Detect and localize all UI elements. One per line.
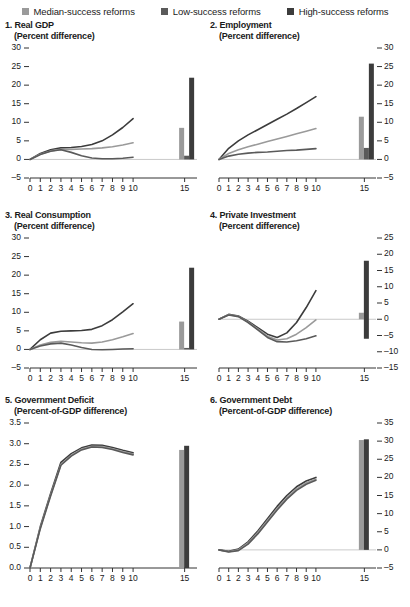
legend-item-high: High-success reforms xyxy=(287,6,389,17)
legend-label: Median-success reforms xyxy=(34,6,135,17)
chart-legend: Median-success reforms Low-success refor… xyxy=(0,0,410,20)
panel-private-investment: 4. Private Investment (Percent differenc… xyxy=(205,210,410,395)
panel-government-deficit: 5. Government Deficit (Percent-of-GDP di… xyxy=(0,395,205,597)
panel-subtitle: (Percent difference) xyxy=(0,31,205,42)
legend-label: High-success reforms xyxy=(299,6,389,17)
legend-item-median: Median-success reforms xyxy=(22,6,135,17)
panel-title: 5. Government Deficit xyxy=(0,395,205,406)
panel-subtitle: (Percent difference) xyxy=(205,221,410,232)
plot-area: –50510152025303501234567891015 xyxy=(205,417,410,592)
panel-title: 2. Employment xyxy=(205,20,410,31)
legend-label: Low-success reforms xyxy=(173,6,261,17)
panel-title: 6. Government Debt xyxy=(205,395,410,406)
plot-area: 0.00.51.01.52.02.53.03.501234567891015 xyxy=(0,417,205,592)
panel-subtitle: (Percent-of-GDP difference) xyxy=(205,406,410,417)
square-swatch-icon xyxy=(22,8,29,15)
panel-real-gdp: 1. Real GDP (Percent difference) –505101… xyxy=(0,20,205,210)
panel-subtitle: (Percent difference) xyxy=(0,221,205,232)
plot-area: –505101520253001234567891015 xyxy=(0,232,205,392)
panel-employment: 2. Employment (Percent difference) –5051… xyxy=(205,20,410,210)
square-swatch-icon xyxy=(161,8,168,15)
panel-government-debt: 6. Government Debt (Percent-of-GDP diffe… xyxy=(205,395,410,597)
panel-subtitle: (Percent difference) xyxy=(205,31,410,42)
panel-grid: 1. Real GDP (Percent difference) –505101… xyxy=(0,20,410,597)
panel-real-consumption: 3. Real Consumption (Percent difference)… xyxy=(0,210,205,395)
panel-subtitle: (Percent-of-GDP difference) xyxy=(0,406,205,417)
plot-area: –505101520253001234567891015 xyxy=(0,42,205,202)
plot-area: –505101520253001234567891015 xyxy=(205,42,410,202)
panel-title: 4. Private Investment xyxy=(205,210,410,221)
legend-item-low: Low-success reforms xyxy=(161,6,261,17)
panel-title: 3. Real Consumption xyxy=(0,210,205,221)
plot-area: –15–10–5051015202501234567891015 xyxy=(205,232,410,392)
panel-title: 1. Real GDP xyxy=(0,20,205,31)
square-swatch-icon xyxy=(287,8,294,15)
